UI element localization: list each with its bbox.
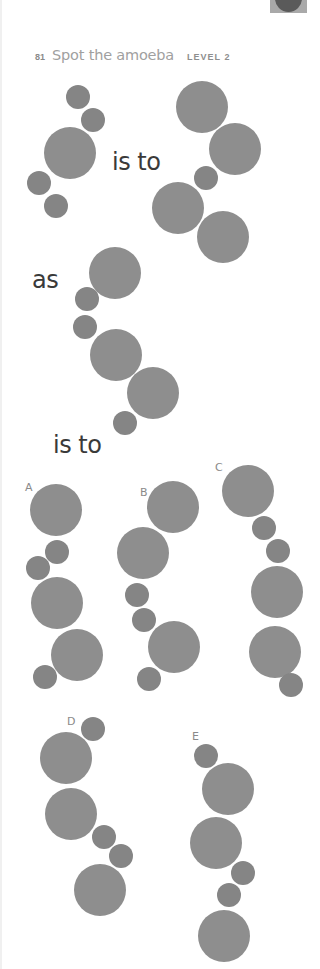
amoeba-cell-small <box>194 166 218 190</box>
amoeba-cell-large <box>222 465 274 517</box>
circle-tab-icon <box>275 0 302 12</box>
option-label-a[interactable]: A <box>25 482 33 493</box>
amoeba-cell-large <box>44 127 96 179</box>
amoeba-cell-large <box>251 566 303 618</box>
amoeba-cell-large <box>30 484 82 536</box>
amoeba-cell-large <box>45 788 97 840</box>
amoeba-cell-large <box>147 481 199 533</box>
amoeba-cell-large <box>152 182 204 234</box>
amoeba-cell-small <box>81 108 105 132</box>
amoeba-cell-small <box>45 540 69 564</box>
amoeba-cell-large <box>198 910 250 962</box>
amoeba-cell-small <box>279 673 303 697</box>
amoeba-cell-small <box>75 287 99 311</box>
puzzle-header: 81 Spot the amoeba LEVEL 2 <box>35 45 230 67</box>
option-label-e[interactable]: E <box>192 731 199 742</box>
amoeba-cell-large <box>190 817 242 869</box>
amoeba-cell-large <box>197 211 249 263</box>
amoeba-cell-large <box>202 763 254 815</box>
amoeba-cell-large <box>209 123 261 175</box>
amoeba-cell-small <box>125 583 149 607</box>
option-label-c[interactable]: C <box>215 462 223 473</box>
connector-is-to-1: is to <box>112 150 160 174</box>
connector-as: as <box>32 268 58 292</box>
amoeba-cell-large <box>127 367 179 419</box>
connector-is-to-2: is to <box>53 433 101 457</box>
amoeba-cell-small <box>217 883 241 907</box>
amoeba-cell-small <box>231 861 255 885</box>
amoeba-cell-small <box>137 667 161 691</box>
puzzle-number: 81 <box>35 52 45 62</box>
amoeba-cell-large <box>51 629 103 681</box>
amoeba-cell-small <box>66 85 90 109</box>
corner-tab <box>270 0 307 13</box>
amoeba-cell-small <box>92 825 116 849</box>
amoeba-cell-large <box>176 81 228 133</box>
page-spine <box>0 0 2 969</box>
amoeba-cell-small <box>194 744 218 768</box>
amoeba-cell-small <box>26 556 50 580</box>
amoeba-cell-large <box>40 732 92 784</box>
amoeba-cell-small <box>27 171 51 195</box>
amoeba-cell-small <box>33 665 57 689</box>
amoeba-cell-small <box>44 194 68 218</box>
option-label-b[interactable]: B <box>140 487 148 498</box>
amoeba-cell-small <box>113 411 137 435</box>
amoeba-cell-large <box>249 626 301 678</box>
amoeba-cell-small <box>252 516 276 540</box>
amoeba-cell-large <box>31 577 83 629</box>
amoeba-cell-large <box>117 527 169 579</box>
amoeba-cell-small <box>81 717 105 741</box>
option-label-d[interactable]: D <box>67 716 75 727</box>
amoeba-cell-small <box>73 315 97 339</box>
level-badge: LEVEL 2 <box>187 52 230 62</box>
puzzle-title: Spot the amoeba <box>52 47 174 63</box>
amoeba-cell-small <box>109 844 133 868</box>
amoeba-cell-small <box>266 539 290 563</box>
amoeba-cell-small <box>132 608 156 632</box>
amoeba-cell-large <box>148 621 200 673</box>
amoeba-cell-large <box>74 864 126 916</box>
